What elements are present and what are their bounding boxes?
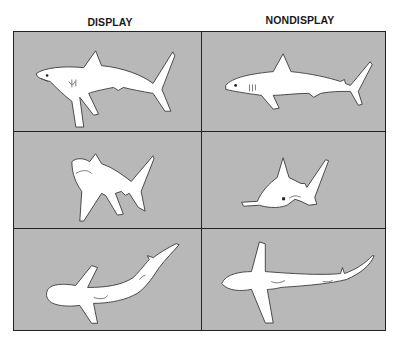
shark-display-dorsal-illustration xyxy=(14,229,201,330)
column-header-display: DISPLAY xyxy=(60,16,160,28)
shark-nondisplay-lateral-illustration xyxy=(202,32,385,131)
panel-display-lateral xyxy=(14,32,202,132)
eye-icon xyxy=(46,74,49,77)
shark-nondisplay-dorsal-illustration xyxy=(202,229,385,330)
panel-nondisplay-lateral xyxy=(202,32,385,132)
eye-icon xyxy=(282,197,285,200)
panel-display-frontal xyxy=(14,132,202,229)
shark-nondisplay-frontal-illustration xyxy=(202,132,385,228)
panel-nondisplay-frontal xyxy=(202,132,385,229)
shark-display-lateral-illustration xyxy=(14,32,201,131)
figure-grid xyxy=(13,31,386,331)
eye-icon xyxy=(234,84,237,87)
panel-display-dorsal xyxy=(14,229,202,330)
column-header-nondisplay: NONDISPLAY xyxy=(245,14,355,26)
shark-display-frontal-illustration xyxy=(14,132,201,228)
panel-nondisplay-dorsal xyxy=(202,229,385,330)
